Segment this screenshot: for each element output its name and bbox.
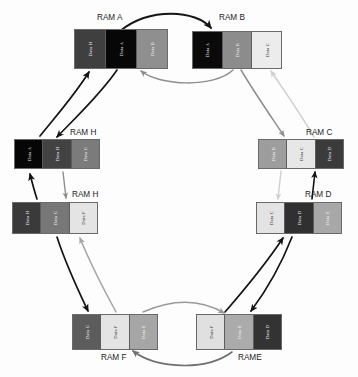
ram-label-ram-c: RAM C — [306, 128, 332, 137]
memory-cell[interactable]: Data D — [285, 203, 313, 233]
memory-cell-label: Data H — [88, 42, 93, 56]
memory-cell[interactable]: Data D — [316, 140, 343, 168]
memory-cell[interactable]: Data D — [254, 315, 281, 349]
memory-cell[interactable]: Data C — [257, 203, 285, 233]
arrow-e-to-d — [225, 238, 283, 312]
memory-cell-label: Data G — [83, 147, 88, 161]
memory-cell[interactable]: Data A — [193, 32, 223, 68]
memory-cell-label: Data C — [268, 211, 273, 225]
memory-cell-label: Data G — [52, 211, 57, 225]
memory-cell-label: Data E — [236, 325, 241, 339]
memory-cell-label: Data D — [296, 211, 301, 225]
memory-cell-label: Data F — [112, 325, 117, 339]
memory-cell-label: Data E — [325, 211, 330, 225]
ram-block-ram-h[interactable]: Data AData HData G — [14, 139, 100, 169]
memory-cell-label: Data H — [54, 147, 59, 161]
ram-block-ram-f[interactable]: Data GData FData E — [72, 314, 158, 350]
ram-block-ram-e[interactable]: Data FData EData D — [196, 314, 282, 350]
memory-cell-label: Data B — [150, 42, 155, 56]
memory-cell-label: Data E — [141, 325, 146, 339]
memory-cell-label: Data H — [24, 211, 29, 225]
arrow-e-to-f — [133, 351, 232, 365]
ram-block-ram-b[interactable]: Data AData BData C — [192, 31, 282, 69]
memory-cell[interactable]: Data H — [75, 30, 106, 68]
ram-block-ram-a[interactable]: Data HData AData B — [74, 29, 168, 69]
arrow-h-to-a — [40, 72, 89, 136]
memory-cell-label: Data G — [84, 325, 89, 339]
memory-cell[interactable]: Data F — [70, 203, 97, 233]
ram-label-ram-h: RAM H — [70, 128, 96, 137]
memory-cell[interactable]: Data B — [223, 32, 253, 68]
ram-block-ram-c[interactable]: Data BData CData D — [258, 139, 344, 169]
arrow-b-to-c — [241, 70, 284, 136]
memory-cell-label: Data F — [208, 325, 213, 339]
arrow-f-to-e — [143, 302, 224, 313]
memory-cell-label: Data D — [327, 147, 332, 161]
ram-label-ram-a: RAM A — [97, 13, 122, 22]
memory-cell-label: Data A — [119, 42, 124, 56]
memory-cell-label: Data A — [205, 43, 210, 57]
arrow-g-to-f — [57, 237, 88, 311]
ram-label-ram-d: RAM D — [305, 190, 331, 199]
memory-cell[interactable]: Data C — [287, 140, 315, 168]
memory-cell[interactable]: Data G — [73, 315, 101, 349]
memory-cell[interactable]: Data G — [72, 140, 99, 168]
memory-cell[interactable]: Data B — [259, 140, 287, 168]
diagram-canvas: RAM AData HData AData BRAM BData AData B… — [0, 0, 358, 377]
memory-cell-label: Data B — [235, 43, 240, 57]
memory-cell-label: Data D — [265, 325, 270, 339]
memory-cell-label: Data B — [270, 147, 275, 161]
ram-label-ram-g: RAM H — [72, 190, 98, 199]
memory-cell-label: Data C — [264, 43, 269, 57]
arrow-c-to-d — [278, 171, 281, 199]
memory-cell[interactable]: Data E — [130, 315, 157, 349]
memory-cell-label: Data C — [298, 147, 303, 161]
ram-label-ram-f: RAM F — [101, 353, 126, 362]
memory-cell[interactable]: Data B — [137, 30, 167, 68]
memory-cell[interactable]: Data G — [41, 203, 69, 233]
memory-cell-label: Data A — [26, 147, 31, 161]
arrow-d-to-e — [251, 237, 292, 311]
memory-cell[interactable]: Data H — [13, 203, 41, 233]
arrow-layer — [0, 0, 358, 377]
ram-label-ram-b: RAM B — [219, 13, 245, 22]
memory-cell[interactable]: Data C — [252, 32, 281, 68]
memory-cell[interactable]: Data E — [314, 203, 341, 233]
memory-cell[interactable]: Data H — [43, 140, 71, 168]
arrow-f-to-g — [80, 238, 116, 312]
memory-cell[interactable]: Data E — [225, 315, 253, 349]
ram-label-ram-e: RAME — [238, 353, 262, 362]
arrow-g-to-h — [30, 174, 37, 199]
ram-block-ram-d[interactable]: Data CData DData E — [256, 202, 342, 234]
memory-cell[interactable]: Data F — [101, 315, 129, 349]
memory-cell[interactable]: Data F — [197, 315, 225, 349]
ram-block-ram-g[interactable]: Data HData GData F — [12, 202, 98, 234]
memory-cell[interactable]: Data A — [15, 140, 43, 168]
arrow-h-to-g — [63, 172, 66, 198]
memory-cell[interactable]: Data A — [106, 30, 137, 68]
arrow-a-to-h — [57, 70, 117, 137]
memory-cell-label: Data F — [81, 211, 86, 225]
arrow-b-to-a — [141, 70, 233, 83]
